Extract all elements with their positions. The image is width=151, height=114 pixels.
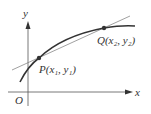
point-q bbox=[102, 26, 106, 30]
x-axis-arrow-icon bbox=[125, 90, 133, 95]
secant-diagram: y x O P(x₁, y₁) Q(x₂, y₂) bbox=[0, 0, 151, 114]
y-axis-arrow-icon bbox=[26, 21, 31, 29]
origin-label: O bbox=[15, 94, 23, 106]
point-p bbox=[37, 56, 41, 60]
point-p-label: P(x₁, y₁) bbox=[38, 63, 76, 76]
point-q-label: Q(x₂, y₂) bbox=[97, 34, 136, 47]
y-axis-label: y bbox=[22, 7, 28, 19]
x-axis-label: x bbox=[134, 86, 140, 98]
